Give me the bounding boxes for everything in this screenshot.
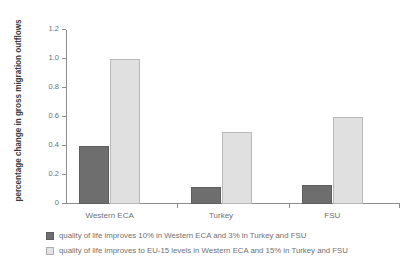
plot-area: 00.20.40.60.81.01.2 Western ECATurkeyFSU: [66, 30, 400, 204]
bar-western-eca-series-1: [79, 146, 109, 204]
bar-fsu-series-2: [333, 117, 363, 204]
y-axis-line: [66, 30, 67, 204]
y-tick: 0.2: [62, 174, 66, 175]
y-tick-label: 0.8: [49, 82, 59, 91]
y-tick: 0: [62, 203, 66, 204]
legend-label: quality of life improves to EU-15 levels…: [59, 246, 348, 255]
category-label: Turkey: [209, 211, 233, 220]
y-tick: 0.6: [62, 116, 66, 117]
chart-legend: quality of life improves 10% in Western …: [46, 228, 406, 258]
y-axis-title-text: percentage change in gross migration out…: [14, 20, 23, 202]
y-tick-label: 0: [55, 198, 59, 207]
x-tick: [289, 204, 290, 208]
y-tick-label: 1.0: [49, 53, 59, 62]
y-tick-label: 1.2: [49, 24, 59, 33]
bar-turkey-series-1: [191, 187, 221, 204]
legend-item-1: quality of life improves 10% in Western …: [46, 228, 406, 243]
legend-swatch-icon: [46, 232, 54, 240]
category-label: FSU: [324, 211, 340, 220]
y-tick: 0.8: [62, 87, 66, 88]
x-tick: [399, 204, 400, 208]
y-tick: 0.4: [62, 145, 66, 146]
x-tick: [177, 204, 178, 208]
bar-western-eca-series-2: [110, 59, 140, 204]
y-tick-label: 0.2: [49, 169, 59, 178]
legend-swatch-icon: [46, 247, 54, 255]
legend-label: quality of life improves 10% in Western …: [59, 231, 306, 240]
y-tick-label: 0.6: [49, 111, 59, 120]
y-tick-label: 0.4: [49, 140, 59, 149]
legend-item-2: quality of life improves to EU-15 levels…: [46, 243, 406, 258]
y-axis-title: percentage change in gross migration out…: [10, 8, 26, 213]
category-label: Western ECA: [86, 211, 134, 220]
bar-chart-figure: percentage change in gross migration out…: [0, 0, 414, 268]
y-tick: 1.2: [62, 29, 66, 30]
y-tick: 1.0: [62, 58, 66, 59]
bar-turkey-series-2: [222, 132, 252, 205]
bar-fsu-series-1: [302, 185, 332, 204]
